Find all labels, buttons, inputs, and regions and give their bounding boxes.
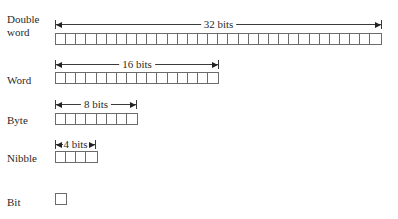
word-cells [55, 72, 219, 84]
bit-cell [137, 73, 147, 83]
double-word-label-line1: Double [7, 13, 39, 26]
bit-cell [147, 73, 157, 83]
byte-label: Byte [7, 114, 28, 127]
nibble-label: Nibble [7, 152, 37, 165]
byte-dimension: 8 bits [55, 100, 137, 109]
bit-cell [117, 114, 127, 124]
bit-cell [259, 34, 269, 44]
bit-cell [269, 34, 279, 44]
bit-cell [56, 34, 66, 44]
arrowhead-left-icon [56, 142, 62, 148]
bit-cell [137, 34, 147, 44]
bit-cell [66, 152, 76, 162]
bit-cell [157, 34, 167, 44]
bit-cell [97, 114, 107, 124]
bit-cell [208, 34, 218, 44]
bit-cell [350, 34, 360, 44]
bit-cell [178, 34, 188, 44]
double-word-cells [55, 33, 382, 45]
bit-cell [330, 34, 340, 44]
dimension-tick-right [95, 140, 96, 149]
double-word-label-line2: word [7, 26, 39, 39]
dimension-label: 32 bits [201, 17, 237, 31]
bit-cell [86, 114, 96, 124]
bit-cell [66, 73, 76, 83]
bit-cell [86, 152, 96, 162]
bit-cell [107, 114, 117, 124]
bit-cell [208, 73, 218, 83]
bit-cell [117, 73, 127, 83]
bit-cell [198, 34, 208, 44]
bit-cell [66, 34, 76, 44]
bit-cell [239, 34, 249, 44]
bit-cell [279, 34, 289, 44]
dimension-tick-right [218, 60, 219, 69]
dimension-label: 4 bits [62, 137, 88, 151]
bit-cell [76, 152, 86, 162]
bit-cell [55, 193, 67, 205]
dimension-label: 16 bits [119, 57, 155, 71]
word-label: Word [7, 74, 31, 87]
bit-cell [157, 73, 167, 83]
bit-cell [228, 34, 238, 44]
bit-cell [56, 152, 66, 162]
bit-cell [188, 34, 198, 44]
bit-cell [117, 34, 127, 44]
bit-cell [360, 34, 370, 44]
bit-cell [340, 34, 350, 44]
bit-cell [107, 73, 117, 83]
bit-cell [97, 34, 107, 44]
dimension-tick-right [381, 20, 382, 29]
bit-cell [127, 114, 137, 124]
bit-cell [289, 34, 299, 44]
word-dimension: 16 bits [55, 60, 219, 69]
bit-cell [86, 73, 96, 83]
bit-cell [198, 73, 208, 83]
arrowhead-left-icon [56, 22, 62, 28]
double-word-dimension: 32 bits [55, 20, 382, 29]
bit-cell [97, 73, 107, 83]
bit-cell [76, 114, 86, 124]
bit-cell [66, 114, 76, 124]
double-word-label: Double word [7, 13, 39, 39]
bit-cell [249, 34, 259, 44]
bit-cell [107, 34, 117, 44]
nibble-dimension: 4 bits [55, 140, 96, 149]
bit-cell [56, 194, 66, 204]
bit-cell [127, 73, 137, 83]
dimension-tick-right [136, 100, 137, 109]
bit-cell [168, 73, 178, 83]
bit-cell [76, 34, 86, 44]
bit-cell [127, 34, 137, 44]
arrowhead-left-icon [56, 62, 62, 68]
bit-cell [56, 73, 66, 83]
bit-cell [76, 73, 86, 83]
nibble-cells [55, 151, 98, 163]
bit-label: Bit [7, 196, 20, 209]
bit-cell [218, 34, 228, 44]
bit-cell [320, 34, 330, 44]
bit-cell [56, 114, 66, 124]
arrowhead-left-icon [56, 102, 62, 108]
bit-cell [310, 34, 320, 44]
dimension-label: 8 bits [81, 97, 111, 111]
bit-cell [168, 34, 178, 44]
bit-cell [86, 34, 96, 44]
bit-cell [147, 34, 157, 44]
bit-cell [299, 34, 309, 44]
bit-cell [188, 73, 198, 83]
bit-cell [178, 73, 188, 83]
bit-cell [370, 34, 380, 44]
byte-cells [55, 113, 138, 125]
